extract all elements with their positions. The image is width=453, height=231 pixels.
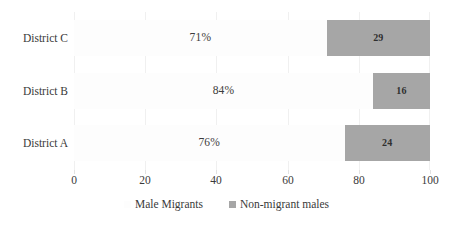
legend-item-male-migrants[interactable]: Male Migrants <box>124 198 203 210</box>
legend-label-non-migrant-males: Non-migrant males <box>240 198 329 210</box>
legend-item-non-migrant-males[interactable]: Non-migrant males <box>229 198 329 210</box>
stacked-bar-chart: 71% 29 84% 16 76% 24 District C Dis <box>0 0 453 231</box>
chart-legend: Male Migrants Non-migrant males <box>0 198 453 210</box>
bar-row-district-b: 84% 16 <box>74 73 430 109</box>
bar-segment-non-migrant-males[interactable]: 24 <box>345 125 430 161</box>
bar-label-male-migrants: 84% <box>213 85 235 97</box>
bar-label-male-migrants: 71% <box>190 32 212 44</box>
x-axis-tick-label-0: 0 <box>71 174 77 186</box>
bar-segment-male-migrants[interactable]: 84% <box>74 73 373 109</box>
bar-segment-non-migrant-males[interactable]: 29 <box>327 20 430 56</box>
bar-segment-male-migrants[interactable]: 76% <box>74 125 345 161</box>
x-axis-tick-label-20: 20 <box>139 174 151 186</box>
bar-segment-male-migrants[interactable]: 71% <box>74 20 327 56</box>
legend-swatch-icon <box>124 201 131 208</box>
x-axis-tick-label-80: 80 <box>353 174 365 186</box>
legend-label-male-migrants: Male Migrants <box>135 198 203 210</box>
x-axis-tick-label-40: 40 <box>210 174 222 186</box>
bar-row-district-a: 76% 24 <box>74 125 430 161</box>
bar-label-male-migrants: 76% <box>198 137 220 149</box>
bar-label-non-migrant-males: 24 <box>382 138 392 148</box>
bar-segment-non-migrant-males[interactable]: 16 <box>373 73 430 109</box>
plot-area: 71% 29 84% 16 76% 24 <box>74 12 430 170</box>
y-axis-label-district-b: District B <box>0 85 68 97</box>
legend-swatch-icon <box>229 201 236 208</box>
bar-row-district-c: 71% 29 <box>74 20 430 56</box>
y-axis-label-district-a: District A <box>0 137 68 149</box>
y-axis-label-district-c: District C <box>0 32 68 44</box>
x-axis-tick-label-60: 60 <box>282 174 294 186</box>
x-axis-tick-label-100: 100 <box>421 174 438 186</box>
bar-label-non-migrant-males: 29 <box>373 33 383 43</box>
bar-label-non-migrant-males: 16 <box>396 86 406 96</box>
